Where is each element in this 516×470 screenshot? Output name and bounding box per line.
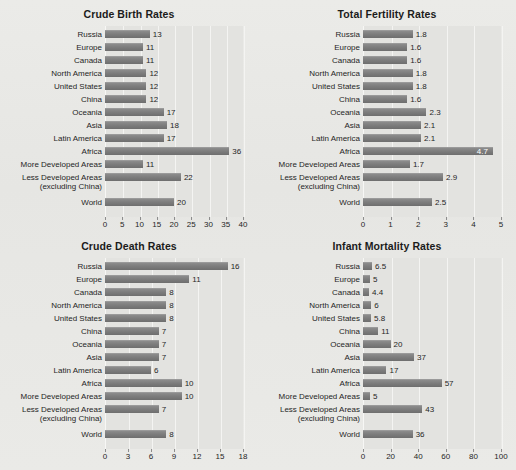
bar-value-label: 11: [146, 43, 154, 52]
category-label-text: North America: [309, 301, 360, 310]
bar-value-label: 2.9: [446, 173, 457, 182]
category-label-text: Less Developed Areas: [280, 405, 360, 414]
category-label: United States: [262, 82, 360, 91]
category-label: Less Developed Areas(excluding China): [4, 405, 102, 423]
chart-panel-infant-mortality-rates: Infant Mortality Rates6.5Russia5Europe4.…: [262, 238, 512, 466]
bar-value-label: 1.8: [416, 82, 427, 91]
category-label: Asia: [262, 353, 360, 362]
category-label: World: [262, 198, 360, 207]
category-sublabel: (excluding China): [4, 182, 102, 191]
gridline: [192, 26, 193, 217]
x-axis-tick-label: 30: [204, 220, 213, 230]
chart-panel-crude-death-rates: Crude Death Rates16Russia11Europe8Canada…: [4, 238, 254, 466]
x-axis-tick-label: 35: [221, 220, 230, 230]
gridline: [447, 26, 448, 217]
category-label-text: Oceania: [72, 340, 102, 349]
category-label: More Developed Areas: [4, 160, 102, 169]
bar: [105, 275, 189, 283]
chart-panel-crude-birth-rates: Crude Birth Rates13Russia11Europe11Canad…: [4, 4, 254, 235]
category-label: Oceania: [4, 340, 102, 349]
bar-value-label: 5: [373, 392, 377, 401]
x-axis-tick-label: 20: [170, 220, 179, 230]
category-label-text: Asia: [344, 121, 360, 130]
bar-value-label: 1.8: [416, 69, 427, 78]
bar: [105, 43, 143, 51]
bar: [363, 327, 378, 335]
x-axis-tick-label: 20: [386, 452, 395, 462]
category-label-text: Russia: [78, 262, 102, 271]
x-axis-tick-label: 5: [120, 220, 124, 230]
bar-value-label: 10: [185, 392, 194, 401]
bar: [105, 430, 166, 438]
x-axis-tick-label: 100: [494, 452, 507, 462]
category-label: Latin America: [262, 134, 360, 143]
bar-value-label: 17: [389, 366, 398, 375]
bar-value-label: 20: [177, 198, 186, 207]
x-axis-tick-label: 3: [444, 220, 448, 230]
x-axis: 0510152025303540: [105, 217, 243, 231]
category-label: China: [4, 95, 102, 104]
gridline: [474, 26, 475, 217]
category-label-text: China: [339, 95, 360, 104]
x-axis-tick-label: 40: [414, 452, 423, 462]
category-label: United States: [4, 314, 102, 323]
category-label-text: China: [81, 327, 102, 336]
bar-value-label: 5.8: [374, 314, 385, 323]
category-label-text: Latin America: [54, 134, 102, 143]
category-label-text: More Developed Areas: [279, 160, 360, 169]
x-axis-tick-label: 0: [361, 220, 365, 230]
bar: [363, 160, 410, 168]
bar: [105, 147, 229, 155]
bar: [363, 108, 426, 116]
category-label: Africa: [262, 379, 360, 388]
bar: [105, 198, 174, 206]
x-axis-tick-label: 10: [135, 220, 144, 230]
x-axis-tick-label: 4: [471, 220, 475, 230]
chart-title: Crude Birth Rates: [4, 8, 254, 21]
category-label-text: Canada: [332, 288, 360, 297]
bar-value-label: 8: [169, 430, 173, 439]
category-label-text: World: [81, 198, 102, 207]
category-label: Africa: [262, 147, 360, 156]
category-label: Russia: [262, 262, 360, 271]
bar: [105, 392, 182, 400]
category-label-text: United States: [54, 82, 102, 91]
category-label-text: China: [81, 95, 102, 104]
bar-value-label: 7: [162, 327, 166, 336]
gridline: [175, 258, 176, 449]
bar: [363, 405, 422, 413]
category-label: Russia: [4, 30, 102, 39]
bar-value-label: 8: [169, 301, 173, 310]
x-axis: 020406080100: [363, 449, 501, 463]
bar: [363, 147, 493, 155]
gridline: [227, 26, 228, 217]
x-axis-tick-label: 5: [499, 220, 503, 230]
category-label: Canada: [4, 56, 102, 65]
bar: [363, 353, 414, 361]
bar-value-label: 2.3: [429, 108, 440, 117]
bar-value-label: 11: [381, 327, 389, 336]
category-label: Europe: [4, 275, 102, 284]
category-label-text: World: [81, 430, 102, 439]
bar-value-label: 17: [167, 134, 176, 143]
category-label: China: [262, 95, 360, 104]
gridline: [221, 258, 222, 449]
category-label: Less Developed Areas(excluding China): [262, 173, 360, 191]
category-label: Oceania: [262, 108, 360, 117]
category-label: More Developed Areas: [262, 160, 360, 169]
bar-value-label: 7: [162, 353, 166, 362]
bar: [363, 198, 432, 206]
bar: [105, 340, 159, 348]
bar-value-label: 1.8: [416, 30, 427, 39]
bar: [105, 95, 146, 103]
bar-value-label: 12: [149, 69, 158, 78]
bar-value-label: 22: [184, 173, 193, 182]
bar-value-label: 4.4: [372, 288, 383, 297]
x-axis: 0369121518: [105, 449, 243, 463]
category-label-text: Russia: [336, 262, 360, 271]
bar-value-label: 11: [146, 160, 154, 169]
category-label-text: Europe: [76, 275, 102, 284]
category-label-text: Latin America: [312, 134, 360, 143]
bar-value-label: 2.1: [424, 134, 435, 143]
bar-value-label: 4.7: [477, 147, 488, 156]
